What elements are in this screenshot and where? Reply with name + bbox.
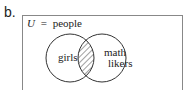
set-label-likers: likers [108, 57, 132, 69]
universe-label: U = people [27, 17, 82, 29]
set-label-girls: girls [58, 51, 78, 63]
venn-diagram: U = people girls math likers [0, 0, 189, 90]
